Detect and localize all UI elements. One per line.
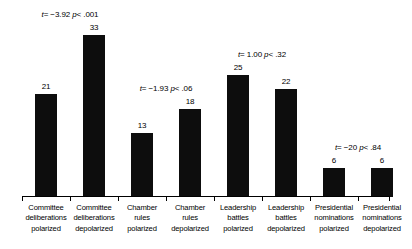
- category-label-line: Leadership: [214, 203, 262, 213]
- t-statistic-value: = −20: [337, 143, 357, 152]
- bar-group: 18: [166, 0, 214, 197]
- x-axis-tick: [389, 196, 390, 201]
- category-label-line: depolarized: [70, 224, 118, 234]
- bar-chart: 21 33 13 18 25 22 6 6: [0, 0, 412, 249]
- bar-group: 22: [262, 0, 310, 197]
- significance-annotation: t= 1.00 p< .32: [56, 50, 412, 60]
- category-label-line: Leadership: [262, 203, 310, 213]
- bar-value-label: 25: [214, 63, 262, 72]
- x-axis-tick: [166, 196, 167, 201]
- x-axis-tick: [310, 196, 311, 201]
- significance-annotation: t= −3.92 p< .001: [0, 10, 276, 20]
- category-label: Committee deliberations polarized: [22, 203, 70, 234]
- category-label-line: polarized: [310, 224, 358, 234]
- x-axis-tick: [358, 196, 359, 201]
- bar-value-label: 13: [118, 121, 166, 130]
- category-label-line: deliberations: [22, 213, 70, 223]
- x-axis-tick: [22, 196, 23, 201]
- category-label: Chamber rules polarized: [118, 203, 166, 234]
- category-label-line: Committee: [70, 203, 118, 213]
- bar-group: 13: [118, 0, 166, 197]
- bar: [371, 168, 393, 197]
- x-axis-line: [22, 196, 390, 197]
- category-label-line: Committee: [22, 203, 70, 213]
- bar-value-label: 6: [358, 156, 406, 165]
- p-value-value: < .84: [364, 143, 382, 152]
- x-axis-tick: [262, 196, 263, 201]
- p-value-value: < .32: [268, 50, 286, 59]
- bar: [179, 109, 201, 197]
- significance-annotation: t= −20 p< .84: [152, 143, 412, 153]
- category-label-line: rules: [118, 213, 166, 223]
- category-label-line: polarized: [118, 224, 166, 234]
- category-label-line: depolarized: [358, 224, 406, 234]
- category-label-line: polarized: [22, 224, 70, 234]
- bar: [35, 94, 57, 197]
- category-label-line: deliberations: [70, 213, 118, 223]
- bar-value-label: 6: [310, 156, 358, 165]
- x-axis-tick: [118, 196, 119, 201]
- category-label-line: depolarized: [166, 224, 214, 234]
- category-label-line: Presidential: [358, 203, 406, 213]
- p-value-value: < .06: [175, 84, 193, 93]
- plot-area: 21 33 13 18 25 22 6 6: [0, 0, 412, 197]
- x-axis-tick: [70, 196, 71, 201]
- category-label-line: battles: [214, 213, 262, 223]
- bar: [83, 35, 105, 197]
- category-label-line: depolarized: [262, 224, 310, 234]
- t-statistic-value: = −1.93: [142, 84, 168, 93]
- category-label: Leadership battles polarized: [214, 203, 262, 234]
- bar-group: 6: [358, 0, 406, 197]
- bar: [131, 133, 153, 197]
- category-label: Chamber rules depolarized: [166, 203, 214, 234]
- category-label: Leadership battles depolarized: [262, 203, 310, 234]
- x-axis-tick: [214, 196, 215, 201]
- bar-group: 6: [310, 0, 358, 197]
- category-label: Committee deliberations depolarized: [70, 203, 118, 234]
- category-label: Presidential nominations polarized: [310, 203, 358, 234]
- bar-value-label: 33: [70, 23, 118, 32]
- bar: [323, 168, 345, 197]
- category-label-line: Chamber: [166, 203, 214, 213]
- category-label-line: rules: [166, 213, 214, 223]
- bar-value-label: 18: [166, 97, 214, 106]
- t-statistic-value: = 1.00: [240, 50, 262, 59]
- bar-group: 33: [70, 0, 118, 197]
- category-label-line: Chamber: [118, 203, 166, 213]
- p-value-value: < .001: [77, 10, 99, 19]
- significance-annotation: t= −1.93 p< .06: [0, 84, 372, 94]
- category-label-line: nominations: [358, 213, 406, 223]
- category-label-line: polarized: [214, 224, 262, 234]
- category-label-line: Presidential: [310, 203, 358, 213]
- category-label: Presidential nominations depolarized: [358, 203, 406, 234]
- category-label-line: nominations: [310, 213, 358, 223]
- bar-group: 25: [214, 0, 262, 197]
- category-label-line: battles: [262, 213, 310, 223]
- bar-group: 21: [22, 0, 70, 197]
- x-axis-labels: Committee deliberations polarized Commit…: [0, 203, 412, 249]
- t-statistic-value: = −3.92: [44, 10, 70, 19]
